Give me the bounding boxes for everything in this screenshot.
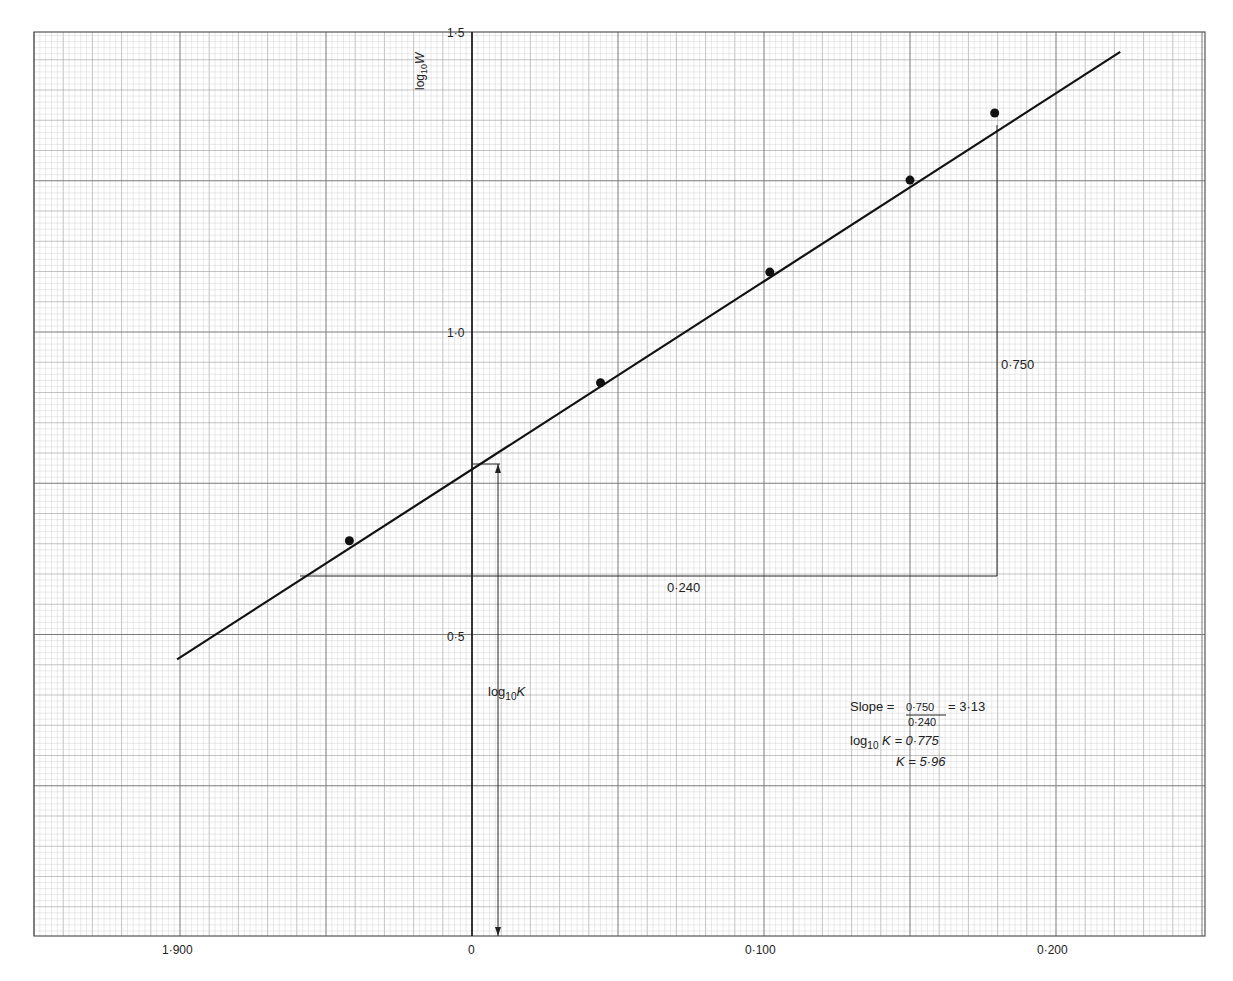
- y-tick-label: 1·5: [447, 26, 465, 40]
- slope-value: = 3·13: [948, 699, 985, 714]
- rise-label: 0·750: [1001, 357, 1034, 372]
- graph-paper-chart: log10W 1·5 1·0 0·5 1·900 0 0·100 0·200 0…: [0, 0, 1233, 981]
- run-label: 0·240: [667, 580, 700, 595]
- best-fit-line: [177, 52, 1120, 659]
- slope-numerator: 0·750: [906, 701, 934, 713]
- arrowhead-up-icon: [495, 464, 501, 473]
- results-annotation: Slope = 0·750 0·240 = 3·13 log10 K = 0·7…: [850, 699, 985, 769]
- data-point: [990, 109, 999, 118]
- data-point: [765, 268, 774, 277]
- x-tick-label: 1·900: [162, 943, 193, 957]
- data-point: [906, 176, 915, 185]
- intercept-label: log10K: [488, 684, 526, 702]
- arrowhead-down-icon: [495, 927, 501, 936]
- x-tick-label: 0·100: [745, 943, 776, 957]
- data-point: [596, 378, 605, 387]
- grid-major: [34, 32, 1205, 936]
- data-point: [345, 536, 354, 545]
- y-axis-label: log10W: [413, 51, 429, 90]
- slope-denominator: 0·240: [908, 716, 936, 728]
- k-value: K = 5·96: [896, 754, 946, 769]
- x-tick-label: 0·200: [1037, 943, 1068, 957]
- plot-frame: [34, 32, 1205, 936]
- slope-text: Slope =: [850, 699, 894, 714]
- y-tick-label: 1·0: [447, 326, 465, 340]
- x-tick-label: 0: [468, 943, 475, 957]
- chart-root: log10W 1·5 1·0 0·5 1·900 0 0·100 0·200 0…: [0, 0, 1233, 981]
- y-tick-label: 0·5: [447, 630, 465, 644]
- grid-minor: [34, 32, 1205, 936]
